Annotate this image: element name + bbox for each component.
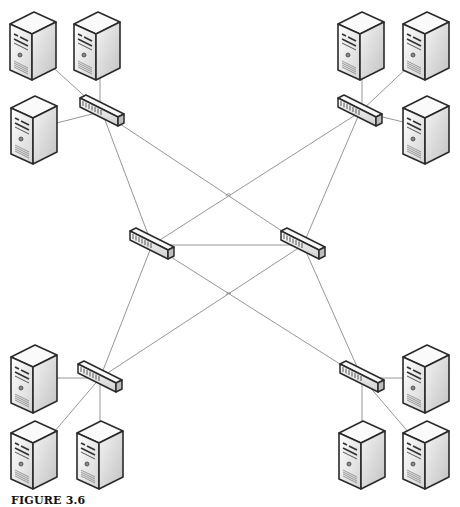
server-tower-icon (403, 12, 449, 80)
server-tower-icon (11, 345, 57, 413)
server-tower-icon (403, 345, 449, 413)
network-link (152, 245, 362, 378)
server-tower-icon (11, 96, 57, 164)
network-link (303, 245, 362, 378)
server-tower-icon (11, 421, 57, 489)
network-link (152, 112, 360, 245)
network-switch-icon (130, 228, 174, 259)
network-switch-icon (281, 228, 325, 259)
server-tower-icon (10, 12, 56, 80)
network-link (100, 245, 303, 378)
network-link (102, 112, 152, 245)
network-link (100, 245, 152, 378)
server-tower-icon (74, 12, 120, 80)
server-tower-icon (339, 421, 385, 489)
line-crossover-hops (226, 194, 231, 295)
server-tower-icon (77, 421, 123, 489)
server-tower-icon (403, 421, 449, 489)
switches-layer (78, 95, 384, 392)
network-link (102, 112, 303, 245)
figure-caption: FIGURE 3.6 (11, 494, 85, 507)
server-tower-icon (403, 96, 449, 164)
network-link (303, 112, 360, 245)
servers-layer (10, 12, 449, 489)
network-switch-icon (80, 95, 124, 126)
server-tower-icon (338, 12, 384, 80)
